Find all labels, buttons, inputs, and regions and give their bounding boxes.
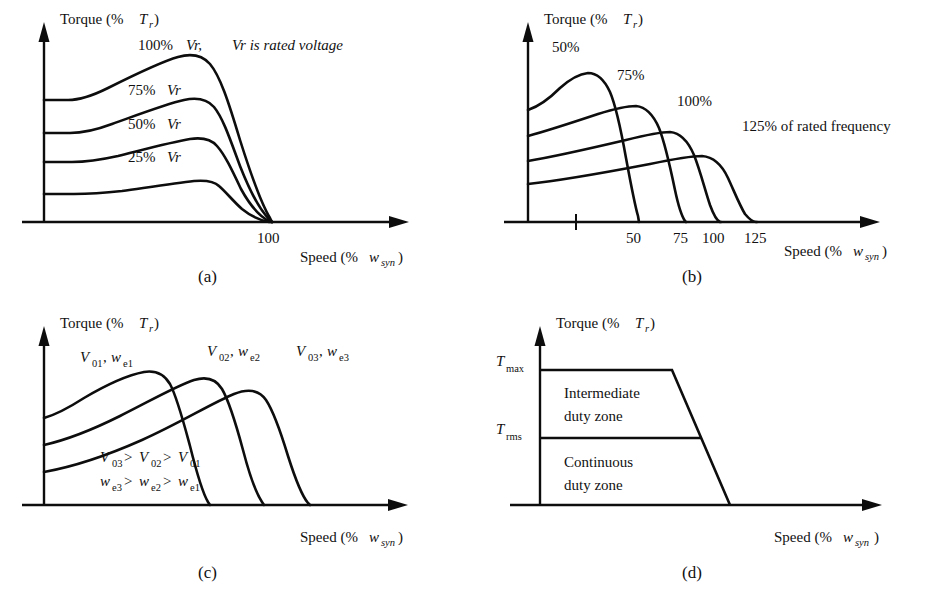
panel-a-x-axis-label: Speed (% w syn ) xyxy=(300,249,403,268)
panel-c-label-v03: V 03 , w e3 xyxy=(296,343,349,363)
svg-text:w: w xyxy=(139,473,149,489)
panel-b-annotation-125: 125% of rated frequency xyxy=(742,118,891,134)
panel-b-label-50: 50% xyxy=(552,39,580,55)
svg-text:Speed (%: Speed (% xyxy=(300,249,358,266)
svg-text:03: 03 xyxy=(308,352,319,363)
panel-a-label-75: 75% xyxy=(128,82,156,98)
panel-a-label-75-unit: Vr xyxy=(167,82,181,98)
svg-text:duty zone: duty zone xyxy=(564,477,623,493)
panel-b-curve-50 xyxy=(528,73,639,222)
svg-text:w: w xyxy=(100,473,110,489)
svg-text:>: > xyxy=(124,473,132,489)
panel-d-ytick-trms: T rms xyxy=(496,421,522,442)
panel-d-x-axis xyxy=(510,499,882,511)
svg-text:Intermediate: Intermediate xyxy=(564,385,640,401)
svg-text:Torque (%: Torque (% xyxy=(60,315,124,332)
panel-b-x-axis-label: Speed (% w syn ) xyxy=(784,243,887,262)
svg-text:T: T xyxy=(623,11,633,27)
svg-text:>: > xyxy=(163,449,171,465)
panel-b-x-axis xyxy=(504,216,880,228)
svg-text:Torque (%: Torque (% xyxy=(544,11,608,28)
svg-text:02: 02 xyxy=(219,352,230,363)
svg-text:e1: e1 xyxy=(123,358,133,369)
panel-c-x-axis-label: Speed (% w syn ) xyxy=(300,529,403,548)
svg-text:duty zone: duty zone xyxy=(564,408,623,424)
panel-d-ytick-tmax: T max xyxy=(496,353,525,374)
panel-c-label-v01: V 01 , w e1 xyxy=(80,349,133,369)
panel-b-xtick-125: 125 xyxy=(744,230,767,246)
panel-b-label-75: 75% xyxy=(617,67,645,83)
panel-b-xtick-75: 75 xyxy=(673,230,688,246)
svg-text:e1: e1 xyxy=(190,482,200,493)
panel-a-label-25-unit: Vr xyxy=(167,149,181,165)
svg-text:01: 01 xyxy=(92,358,103,369)
panel-a-curve-25 xyxy=(44,181,272,222)
svg-text:T: T xyxy=(139,11,149,27)
svg-text:syn: syn xyxy=(865,251,879,262)
svg-text:w: w xyxy=(369,249,379,265)
svg-text:Torque (%: Torque (% xyxy=(556,315,620,332)
panel-d-y-axis-label: Torque (% T r ) xyxy=(556,315,655,334)
svg-text:Speed (%: Speed (% xyxy=(300,529,358,546)
svg-text:02: 02 xyxy=(151,458,162,469)
panel-b-xtick-100: 100 xyxy=(702,230,725,246)
panel-c: V 01 , w e1 V 02 , w e2 V 03 , w e3 xyxy=(0,290,475,603)
panel-c-label-v02: V 02 , w e2 xyxy=(207,343,260,363)
svg-text:V: V xyxy=(296,343,307,359)
panel-a-curve-50 xyxy=(44,138,272,222)
panel-c-inequality-frequency: w e3 > w e2 > w e1 xyxy=(100,473,200,493)
panel-d-zone-intermediate: Intermediate duty zone xyxy=(564,385,640,424)
panel-a-label-50: 50% xyxy=(128,116,156,132)
panel-d-zone-continuous: Continuous duty zone xyxy=(564,454,633,493)
svg-text:w: w xyxy=(111,349,121,365)
svg-text:): ) xyxy=(638,11,643,28)
panel-a-x-axis xyxy=(22,216,409,228)
svg-text:T: T xyxy=(496,421,506,437)
svg-text:V: V xyxy=(178,449,189,465)
svg-text:Torque (%: Torque (% xyxy=(60,11,124,28)
panel-c-y-axis-label: Torque (% T r ) xyxy=(60,315,159,334)
svg-text:T: T xyxy=(635,315,645,331)
panel-d: T max T rms Intermediate duty zone Conti… xyxy=(474,290,949,603)
svg-text:e3: e3 xyxy=(112,482,122,493)
svg-text:): ) xyxy=(398,529,403,546)
svg-text:01: 01 xyxy=(190,458,201,469)
svg-text:): ) xyxy=(882,243,887,260)
panel-d-letter: (d) xyxy=(682,563,702,582)
panel-c-curve-v03 xyxy=(44,391,310,505)
svg-text:V: V xyxy=(100,449,111,465)
svg-text:Speed (%: Speed (% xyxy=(784,243,842,260)
svg-text:,: , xyxy=(103,349,107,365)
svg-text:max: max xyxy=(506,363,525,374)
panel-d-y-axis xyxy=(535,326,546,505)
panel-b-curve-75 xyxy=(528,106,686,222)
svg-text:e3: e3 xyxy=(339,352,349,363)
svg-text:e2: e2 xyxy=(151,482,161,493)
svg-text:e2: e2 xyxy=(250,352,260,363)
svg-text:w: w xyxy=(327,343,337,359)
panel-c-x-axis xyxy=(22,499,408,511)
panel-a: 100% Vr, Vr is rated voltage 75% Vr 50% … xyxy=(0,0,475,300)
panel-a-curve-100 xyxy=(44,55,272,222)
panel-a-annotation: Vr is rated voltage xyxy=(232,37,343,53)
panel-a-y-axis xyxy=(39,22,50,222)
panel-d-x-axis-label: Speed (% w syn ) xyxy=(774,529,879,548)
svg-text:syn: syn xyxy=(381,257,395,268)
panel-b-letter: (b) xyxy=(682,267,702,286)
panel-a-letter: (a) xyxy=(198,267,217,286)
panel-c-letter: (c) xyxy=(198,563,217,582)
panel-a-y-axis-label: Torque (% T r ) xyxy=(60,11,159,30)
svg-text:syn: syn xyxy=(855,537,869,548)
svg-text:>: > xyxy=(124,449,132,465)
svg-text:03: 03 xyxy=(112,458,123,469)
panel-b-curve-125 xyxy=(528,156,757,222)
svg-text:): ) xyxy=(154,11,159,28)
svg-text:): ) xyxy=(874,529,879,546)
svg-text:rms: rms xyxy=(506,431,522,442)
panel-a-label-100: 100% xyxy=(138,37,173,53)
svg-text:V: V xyxy=(139,449,150,465)
svg-text:,: , xyxy=(319,343,323,359)
panel-b: 50% 75% 100% 125% of rated frequency 50 … xyxy=(474,0,949,300)
svg-text:w: w xyxy=(238,343,248,359)
figure-torque-speed-characteristics: 100% Vr, Vr is rated voltage 75% Vr 50% … xyxy=(0,0,949,603)
